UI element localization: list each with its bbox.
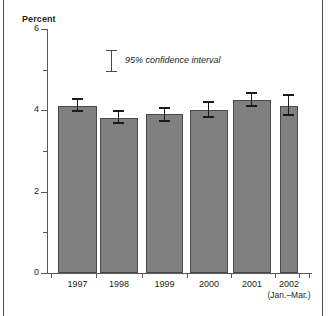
error-cap-bottom (113, 122, 124, 124)
error-cap-bottom (159, 120, 170, 122)
y-tick-3 (43, 151, 47, 152)
y-tick-label-6: 6 (34, 24, 39, 33)
y-tick-0 (41, 273, 47, 274)
error-bar-1998 (100, 110, 138, 124)
error-bar-1999 (146, 107, 183, 122)
x-tick-5 (275, 273, 276, 278)
x-label-year: 1999 (154, 279, 174, 289)
error-bar-2001 (233, 92, 271, 107)
error-cap-bottom (283, 114, 294, 116)
y-tick-label-4: 4 (34, 105, 39, 114)
x-tick-4 (231, 273, 232, 278)
x-label-year: 2000 (199, 279, 219, 289)
x-tick-6 (299, 273, 300, 278)
x-label-sublabel: (Jan.–Mar.) (259, 290, 319, 301)
y-tick-label-2: 2 (34, 187, 39, 196)
bar-1997 (58, 106, 97, 273)
y-tick-4 (41, 110, 47, 111)
x-label-year: 2002 (279, 279, 299, 289)
x-label-2002: 2002(Jan.–Mar.) (259, 279, 319, 301)
bar-1999 (146, 114, 183, 273)
y-tick-label-0: 0 (34, 268, 39, 277)
x-tick-2 (142, 273, 143, 278)
error-bar-2002 (280, 94, 298, 116)
error-cap-bottom (246, 105, 257, 107)
x-tick-3 (187, 273, 188, 278)
x-tick-0 (51, 273, 52, 278)
y-tick-6 (41, 29, 47, 30)
x-label-year: 1997 (67, 279, 87, 289)
bar-2002 (280, 106, 298, 273)
error-bar-2000 (190, 101, 228, 118)
y-tick-5 (43, 70, 47, 71)
x-tick-7 (309, 273, 310, 278)
bar-2000 (190, 110, 228, 273)
error-cap-bottom (203, 116, 214, 118)
plot-area: 6420 (47, 29, 312, 273)
error-stem (288, 94, 289, 116)
error-cap-bottom (72, 110, 83, 112)
bar-2001 (233, 100, 271, 273)
y-axis-line (47, 29, 48, 274)
y-tick-labels: 6420 (21, 29, 39, 274)
figure-border-right (322, 0, 323, 316)
x-tick-1 (96, 273, 97, 278)
error-bar-1997 (58, 98, 97, 112)
figure-border-left (3, 0, 4, 316)
y-tick-2 (41, 192, 47, 193)
legend-label: 95% confidence interval (125, 55, 221, 65)
x-label-year: 1998 (109, 279, 129, 289)
x-axis-line (47, 273, 312, 274)
y-tick-1 (43, 232, 47, 233)
confidence-interval-icon (106, 50, 117, 72)
bar-1998 (100, 118, 138, 273)
chart-figure: Percent 6420 95% confidence interval 199… (0, 0, 332, 316)
